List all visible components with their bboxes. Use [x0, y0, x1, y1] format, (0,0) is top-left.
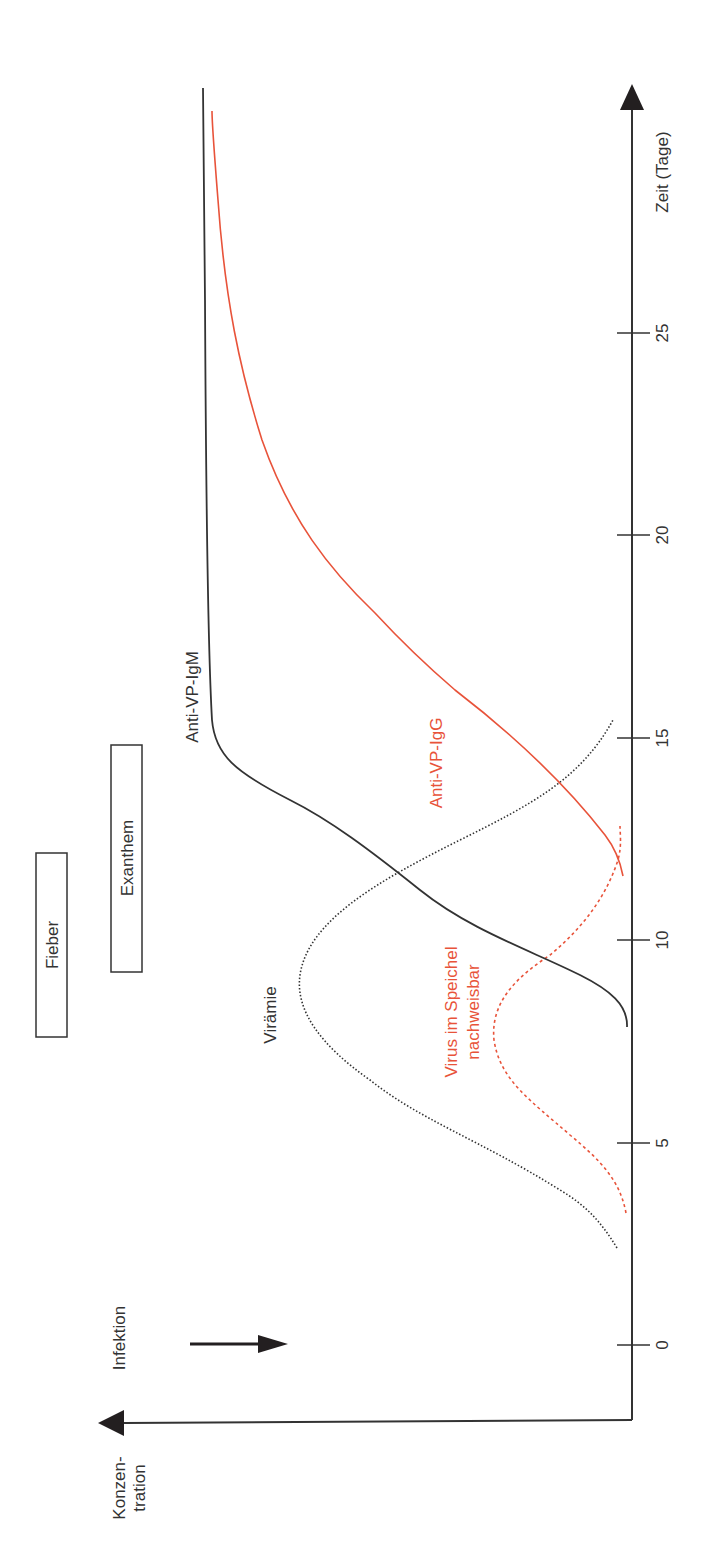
time-axis-label: Zeit (Tage) [653, 131, 672, 212]
time-axis [620, 84, 644, 1420]
igm-curve [203, 88, 627, 1027]
tick-label-25: 25 [653, 324, 672, 343]
concentration-axis [98, 1410, 632, 1436]
exanthem-bar: Exanthem [111, 745, 142, 972]
tick-label-15: 15 [653, 729, 672, 748]
time-axis-tick-labels: 0 5 10 15 20 25 [653, 324, 672, 1350]
concentration-axis-label-line1: Konzen- [110, 1456, 129, 1519]
igg-label: Anti-VP-IgG [427, 718, 446, 809]
chart-canvas: 0 5 10 15 20 25 Zeit (Tage) Konzen- trat… [0, 0, 720, 1541]
exanthem-label: Exanthem [118, 820, 137, 897]
time-axis-arrow-icon [620, 84, 644, 110]
tick-label-20: 20 [653, 526, 672, 545]
infection-label: Infektion [110, 1306, 129, 1370]
time-axis-ticks [617, 333, 650, 1345]
viraemia-label: Virämie [261, 986, 280, 1043]
concentration-axis-label-line2: tration [130, 1464, 149, 1511]
fever-label: Fieber [43, 921, 62, 970]
tick-label-10: 10 [653, 931, 672, 950]
concentration-axis-arrow-icon [98, 1410, 124, 1436]
igg-curve [212, 111, 623, 876]
fever-bar: Fieber [36, 853, 67, 1037]
tick-label-5: 5 [653, 1138, 672, 1147]
infection-arrow-icon [190, 1335, 288, 1353]
saliva-label-line2: nachweisbar [464, 964, 483, 1060]
igm-label: Anti-VP-IgM [183, 651, 202, 743]
saliva-label-line1: Virus im Speichel [442, 946, 461, 1077]
saliva-virus-curve [494, 825, 626, 1213]
tick-label-0: 0 [653, 1340, 672, 1349]
